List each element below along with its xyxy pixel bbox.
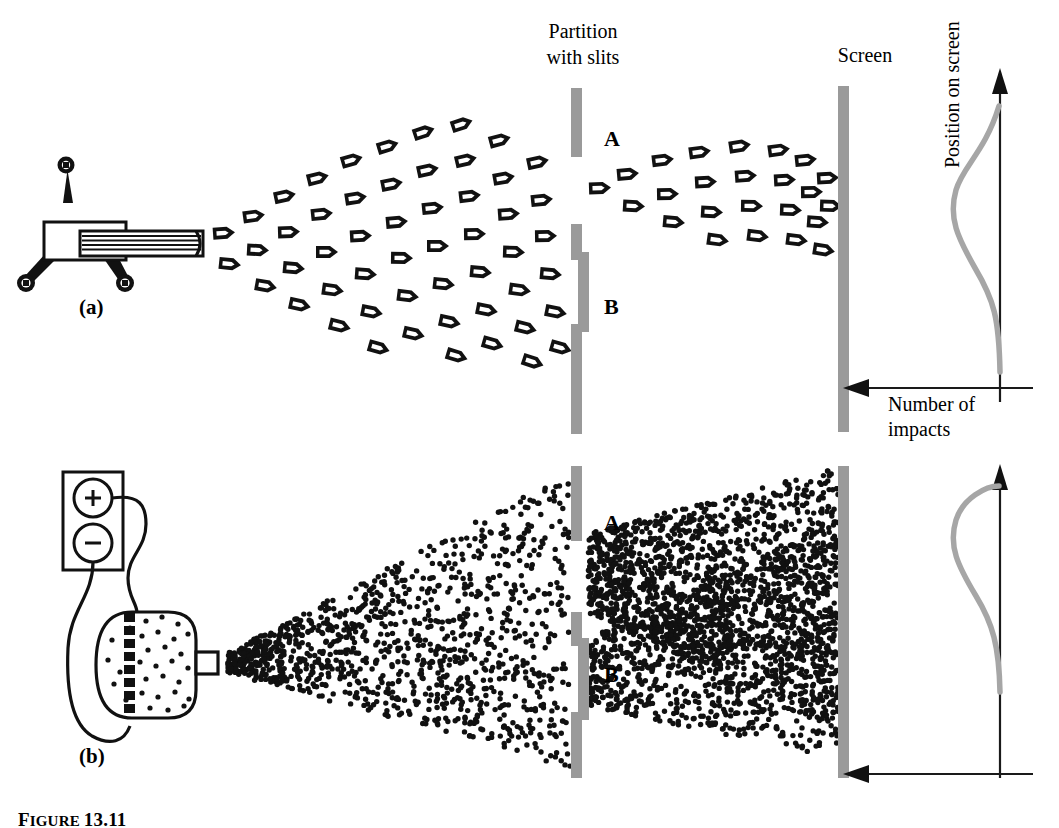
nozzle: [196, 652, 218, 674]
screen-bar-bottom: [838, 466, 849, 778]
caption-number: 13.11: [84, 809, 127, 828]
screen-label: Screen: [810, 44, 920, 67]
figure-caption: FIGURE 13.11: [8, 787, 127, 828]
slit-a-label-top: A: [604, 126, 620, 152]
slit-a-label-bottom: A: [604, 510, 620, 536]
screen-bar-top: [838, 86, 849, 432]
caption-prefix: FIGURE: [18, 813, 84, 828]
slit-b-label-top: B: [604, 294, 619, 320]
number-of-impacts-label: Number of impacts: [888, 392, 1038, 442]
power-supply-icon: [63, 472, 123, 570]
slit-b-label-bottom: B: [604, 662, 619, 688]
panel-b-label: (b): [79, 744, 105, 769]
position-on-screen-label: Position on screen: [941, 0, 964, 168]
panel-a-label: (a): [79, 295, 104, 320]
partition-label: Partition with slits: [523, 18, 643, 70]
